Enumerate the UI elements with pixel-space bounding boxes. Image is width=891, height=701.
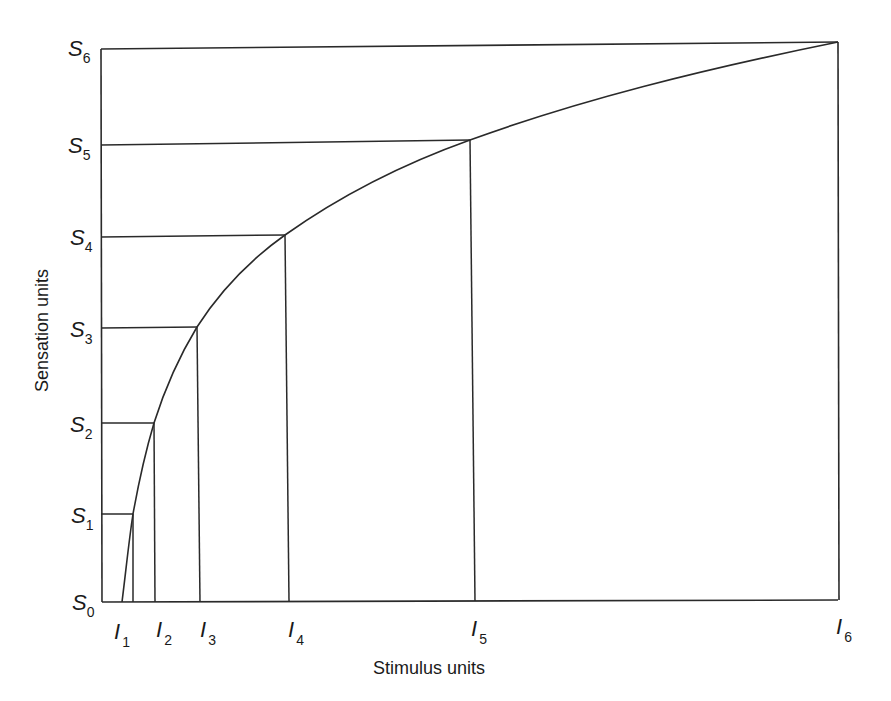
s3-guide (101, 327, 197, 328)
i5-guide (470, 140, 475, 601)
stimulus-guide-lines (133, 140, 475, 602)
s4-guide (101, 235, 285, 237)
y-axis-line (101, 49, 102, 602)
y-tick-s0: S0 (72, 590, 95, 620)
x-tick-i6: I6 (836, 614, 852, 645)
plot-frame (101, 42, 839, 602)
x-tick-i5: I5 (471, 616, 487, 647)
x-tick-i1: I1 (114, 619, 130, 650)
x-tick-i4: I4 (288, 617, 304, 648)
fechner-chart: S6 S5 S4 S3 S2 S1 S0 I1 I2 I3 I4 I5 I6 S… (0, 0, 891, 701)
y-tick-s5: S5 (68, 133, 91, 163)
x-tick-labels: I1 I2 I3 I4 I5 I6 (114, 614, 852, 650)
y-tick-s6: S6 (68, 36, 91, 66)
x-tick-i3: I3 (200, 617, 216, 648)
i4-guide (285, 235, 289, 601)
right-border-i6-line (838, 42, 839, 600)
y-tick-s2: S2 (70, 412, 93, 442)
y-tick-s4: S4 (70, 225, 93, 255)
s5-guide (101, 140, 470, 145)
y-tick-s1: S1 (71, 503, 94, 533)
y-tick-s3: S3 (70, 317, 93, 347)
x-axis-line (102, 600, 838, 602)
x-tick-i2: I2 (156, 617, 172, 648)
i3-guide (197, 327, 200, 602)
y-tick-labels: S6 S5 S4 S3 S2 S1 S0 (68, 36, 95, 620)
top-border-s6-line (101, 42, 838, 49)
i2-guide (154, 423, 155, 602)
y-axis-title: Sensation units (32, 269, 52, 392)
sensation-curve (122, 42, 838, 602)
x-axis-title: Stimulus units (373, 658, 485, 678)
